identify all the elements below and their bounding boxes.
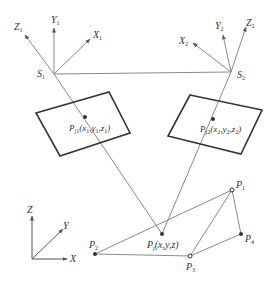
point-label-p4: P4 [245,234,254,245]
axis-label-y2: Y2 [215,21,224,32]
point-p4 [239,232,243,236]
axis-label-x2: X2 [179,36,188,47]
axis-label-z1: Z1 [14,22,23,33]
image-point-right [211,117,215,121]
axis-label-x1: X1 [93,30,102,41]
point-label-p2: P2 [89,240,98,251]
image-point-right-label: Pj2(x2,y2,z2) [200,125,241,135]
axis-label-y1: Y1 [51,15,60,26]
camera-origin-s1: S1 [37,69,45,80]
world-axes [32,216,67,259]
camera-right-axes [193,27,246,72]
image-point-left [83,115,87,119]
world-point-label: Pj(x,y,z) [147,240,179,251]
point-p2 [93,252,97,256]
camera-origin-s2: S2 [237,70,245,81]
stereo-vision-diagram [0,0,275,282]
point-p3 [188,254,192,258]
world-axis-label-z: Z [27,205,33,215]
world-point-pj [160,232,164,236]
axis-label-z2: Z2 [246,18,255,29]
point-label-p3: P3 [186,262,195,273]
point-p1 [230,188,234,192]
camera-left-axes [25,28,90,74]
point-label-p1: P1 [236,180,245,191]
world-axis-label-y: Y [63,221,69,231]
baseline [54,72,231,74]
image-point-left-label: Pj1(x1,y1,z1) [69,124,110,134]
ray-left [54,74,162,234]
world-axis-label-x: X [70,254,76,264]
